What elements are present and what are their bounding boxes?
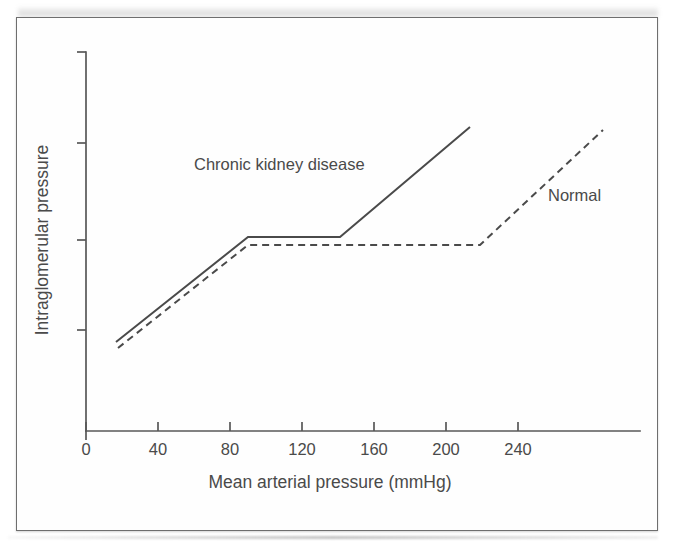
x-tick-label-0: 0 [81,440,90,458]
x-axis-title: Mean arterial pressure (mmHg) [208,472,451,492]
x-axis-tick-labels: 0 40 80 120 160 200 240 [81,440,531,458]
x-tick-label-40: 40 [149,440,167,458]
series-label-normal: Normal [548,186,601,204]
line-chart: 0 40 80 120 160 200 240 Mean arterial pr… [0,0,674,543]
x-tick-label-80: 80 [221,440,239,458]
x-tick-label-160: 160 [360,440,388,458]
x-tick-label-120: 120 [288,440,316,458]
x-tick-label-200: 200 [432,440,460,458]
figure-root: 0 40 80 120 160 200 240 Mean arterial pr… [0,0,674,543]
series-label-chronic-kidney-disease: Chronic kidney disease [194,155,365,173]
axes-group [86,52,640,431]
y-axis-title: Intraglomerular pressure [32,145,52,336]
x-tick-label-240: 240 [504,440,532,458]
y-axis-ticks [77,52,86,330]
